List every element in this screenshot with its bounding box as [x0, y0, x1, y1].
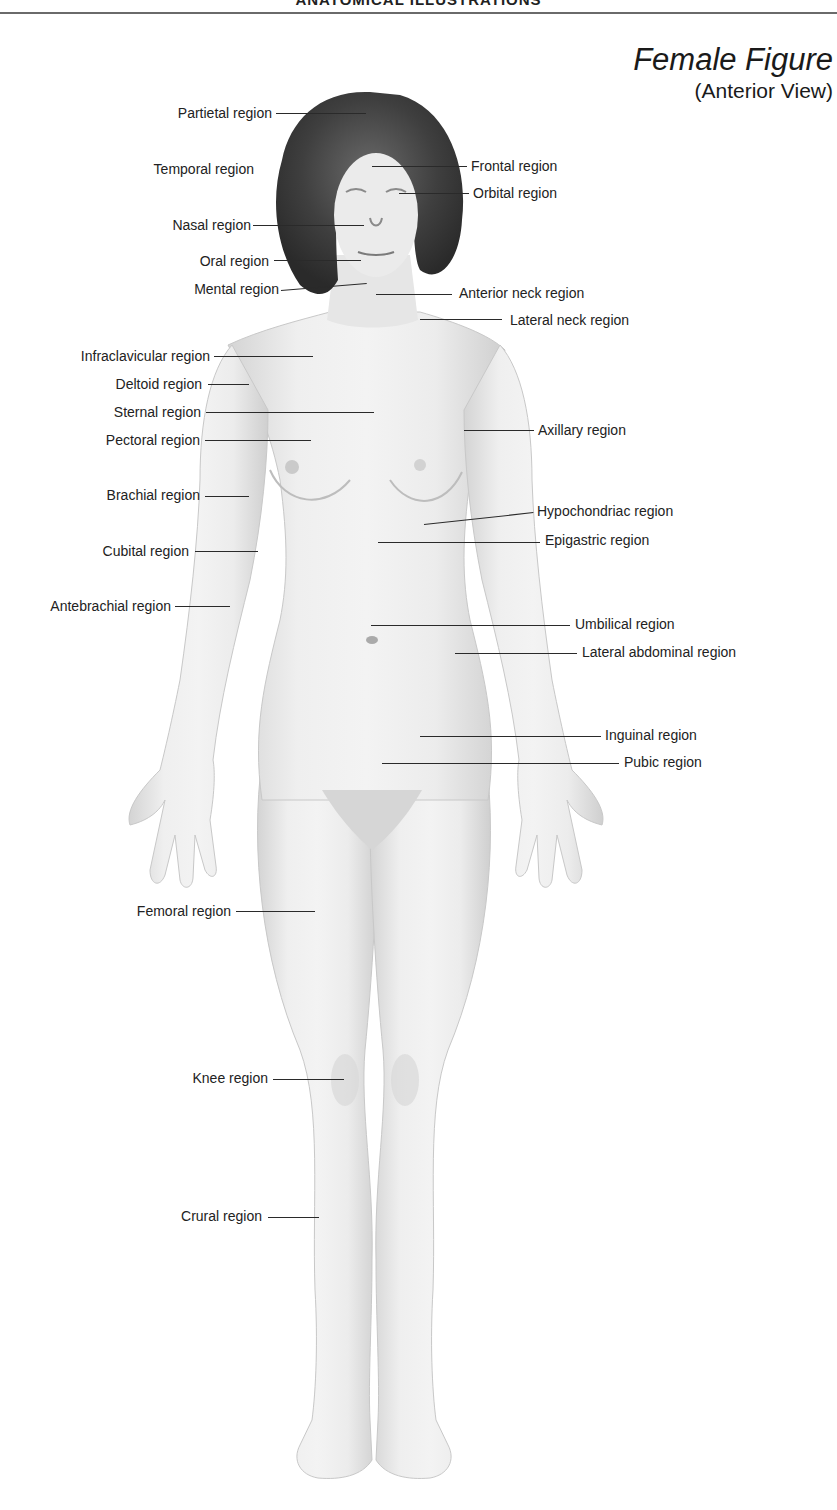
label-sternal-region: Sternal region	[114, 404, 201, 420]
label-pectoral-region: Pectoral region	[106, 432, 200, 448]
label-lateral-neck-region: Lateral neck region	[510, 312, 629, 328]
label-axillary-region: Axillary region	[538, 422, 626, 438]
leader-line-pubic	[382, 763, 619, 764]
label-lateral-abdominal-region: Lateral abdominal region	[582, 644, 736, 660]
leader-line-crural	[268, 1217, 319, 1218]
label-brachial-region: Brachial region	[107, 487, 200, 503]
leader-line-antebrachial	[175, 606, 230, 607]
leader-line-infraclavicular	[214, 356, 313, 357]
leader-line-umbilical	[371, 625, 570, 626]
leader-line-orbital	[399, 193, 469, 194]
label-deltoid-region: Deltoid region	[116, 376, 202, 392]
leader-line-lateral-abdominal	[455, 653, 577, 654]
leader-line-cubital	[195, 551, 258, 552]
label-frontal-region: Frontal region	[471, 158, 557, 174]
leader-line-knee	[273, 1079, 344, 1080]
label-knee-region: Knee region	[192, 1070, 268, 1086]
leader-line-inguinal	[420, 736, 601, 737]
label-epigastric-region: Epigastric region	[545, 532, 649, 548]
left-areola	[285, 460, 299, 474]
torso	[228, 312, 505, 800]
leader-line-epigastric	[378, 542, 540, 543]
leader-line-frontal	[372, 166, 467, 167]
female-figure-illustration	[0, 0, 837, 1510]
label-nasal-region: Nasal region	[172, 217, 251, 233]
label-partietal-region: Partietal region	[178, 105, 272, 121]
label-hypochondriac-region: Hypochondriac region	[537, 503, 673, 519]
leader-line-partietal	[276, 113, 366, 114]
label-orbital-region: Orbital region	[473, 185, 557, 201]
label-umbilical-region: Umbilical region	[575, 616, 675, 632]
label-oral-region: Oral region	[200, 253, 269, 269]
leader-line-anterior-neck	[376, 294, 452, 295]
label-mental-region: Mental region	[194, 281, 279, 297]
label-anterior-neck-region: Anterior neck region	[459, 285, 584, 301]
leader-line-oral	[274, 260, 361, 261]
leader-line-sternal	[206, 412, 374, 413]
leader-line-femoral	[236, 911, 315, 912]
leader-line-axillary	[464, 430, 534, 431]
leader-line-brachial	[205, 496, 249, 497]
face	[334, 153, 418, 277]
leader-line-lateral-neck	[420, 319, 502, 320]
label-temporal-region: Temporal region	[154, 161, 254, 177]
leader-line-deltoid	[208, 384, 249, 385]
label-antebrachial-region: Antebrachial region	[50, 598, 171, 614]
navel	[366, 636, 378, 644]
label-crural-region: Crural region	[181, 1208, 262, 1224]
leader-line-nasal	[253, 225, 364, 226]
label-infraclavicular-region: Infraclavicular region	[81, 348, 210, 364]
right-areola	[414, 459, 426, 471]
label-pubic-region: Pubic region	[624, 754, 702, 770]
label-femoral-region: Femoral region	[137, 903, 231, 919]
legs	[258, 760, 491, 1478]
label-cubital-region: Cubital region	[103, 543, 189, 559]
label-inguinal-region: Inguinal region	[605, 727, 697, 743]
leader-line-pectoral	[205, 440, 311, 441]
